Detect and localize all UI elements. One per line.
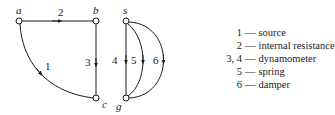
legend-key: 5 [212,65,242,78]
legend-key: 1 [212,26,242,39]
legend-text: damper [259,78,291,91]
legend-item: 6—damper [212,78,335,91]
node-label-c: c [102,98,107,110]
legend-key: 3, 4 [212,52,242,65]
edge-1: 1 [20,24,93,98]
legend-item: 3, 4—dynamometer [212,52,335,65]
node-g: g [116,95,129,112]
legend-dash: — [242,26,259,39]
edge-3: 3 [85,24,96,95]
node-label-s: s [123,4,127,16]
node-c: c [93,95,107,110]
legend-dash: — [242,52,259,65]
legend-item: 2—internal resistance [212,39,335,52]
legend-item: 5—spring [212,65,335,78]
node-b: b [93,4,99,24]
left-graph: 2 3 1 a b c [16,4,107,110]
legend-key: 6 [212,78,242,91]
edge-label-1: 1 [45,60,51,72]
legend-dash: — [242,78,259,91]
node-label-a: a [16,4,22,16]
legend-text: dynamometer [259,52,317,65]
edge-label-6: 6 [153,54,159,66]
legend-text: source [259,26,286,39]
edge-label-3: 3 [85,56,91,68]
legend-item: 1—source [212,26,335,39]
edge-label-2: 2 [58,6,64,18]
legend-key: 2 [212,39,242,52]
node-s: s [123,4,129,24]
edge-label-5: 5 [131,54,137,66]
legend-dash: — [242,65,259,78]
edge-label-4: 4 [112,54,118,66]
linear-graph-diagram: 2 3 1 a b c [0,0,200,115]
legend: 1—source 2—internal resistance 3, 4—dyna… [212,26,335,91]
node-label-b: b [93,4,99,16]
legend-dash: — [242,39,259,52]
edge-2: 2 [22,6,93,21]
legend-text: internal resistance [259,39,335,52]
legend-text: spring [259,65,285,78]
node-a: a [16,4,22,24]
right-graph: 4 5 6 s g [112,4,164,112]
edge-4: 4 [112,24,126,95]
node-label-g: g [116,100,122,112]
edge-5: 5 [128,24,143,96]
